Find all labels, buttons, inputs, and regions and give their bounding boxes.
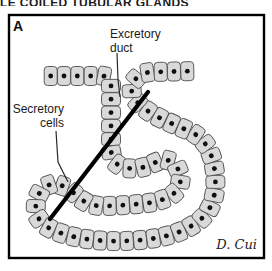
panel-label: A: [13, 18, 23, 34]
gland-cell: [58, 67, 71, 86]
cell-nucleus: [109, 84, 114, 89]
gland-cell: [142, 192, 158, 213]
secretory-cells-label-line2: cells: [40, 116, 64, 130]
gland-cell: [139, 62, 155, 83]
gland-cell: [84, 67, 97, 86]
gland-diagram-canvas: A Excretory duct Secretory cells D. Cui: [0, 0, 272, 271]
artist-signature: D. Cui: [215, 237, 257, 252]
gland-cell: [93, 231, 107, 251]
cell-nucleus: [62, 74, 67, 79]
gland-cell: [103, 196, 116, 215]
gland-cell: [102, 106, 121, 119]
figure-page: LE COILED TUBULAR GLANDS A Excretory duc…: [0, 0, 272, 271]
secretory-cells-label-line1: Secretory: [13, 102, 64, 116]
gland-cell: [123, 159, 137, 179]
gland-cell: [116, 195, 130, 215]
gland-cell: [206, 175, 225, 188]
cell-nucleus: [109, 124, 114, 129]
gland-cell: [120, 231, 134, 251]
gland-cell: [71, 67, 84, 86]
gland-cell: [133, 230, 148, 250]
cell-nucleus: [213, 180, 218, 185]
cell-nucleus: [88, 74, 93, 79]
gland-cell: [129, 194, 144, 214]
gland-cell: [167, 62, 180, 81]
cell-nucleus: [109, 97, 114, 102]
cell-nucleus: [109, 110, 114, 115]
gland-cell: [79, 229, 95, 250]
excretory-duct-label-line1: Excretory: [110, 27, 161, 41]
cell-nucleus: [48, 74, 53, 79]
cell-nucleus: [75, 74, 80, 79]
gland-cell: [44, 67, 57, 86]
gland-cell: [181, 62, 194, 81]
gland-cell: [107, 232, 120, 251]
gland-cell: [154, 62, 167, 81]
excretory-duct-label-line2: duct: [110, 41, 133, 55]
gland-cell: [102, 93, 121, 106]
